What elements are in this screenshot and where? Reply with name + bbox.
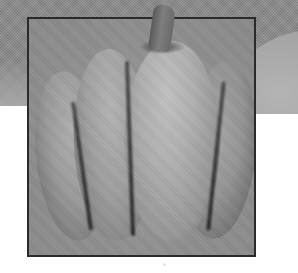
pumpkin-lobe-center-left	[69, 47, 157, 243]
pumpkin	[36, 41, 254, 239]
pumpkin-photo	[0, 0, 298, 273]
pumpkin-lobe-left	[27, 68, 114, 244]
pumpkin-crease	[71, 101, 93, 230]
pumpkin-lobe-center	[124, 41, 220, 241]
print-artifact	[163, 263, 166, 266]
pumpkin-crease	[125, 61, 135, 236]
pumpkin-lobe-right	[176, 58, 256, 242]
pumpkin-crease	[206, 81, 226, 231]
image-frame	[27, 17, 256, 257]
